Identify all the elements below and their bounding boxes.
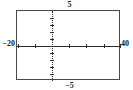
x-axis-tick <box>86 44 87 48</box>
x-axis-tick <box>35 44 36 48</box>
y-axis-tick <box>50 74 54 75</box>
x-axis-tick <box>69 44 70 48</box>
x-axis-min-label: −20 <box>0 39 16 48</box>
x-axis-tick <box>18 44 19 48</box>
y-axis-tick <box>50 67 54 68</box>
y-axis-max-label: 5 <box>0 0 133 9</box>
y-axis-tick <box>50 32 54 33</box>
coordinate-plane-viewport[interactable]: 5 −5 −20 40 <box>0 0 133 90</box>
y-axis-tick <box>50 39 54 40</box>
y-axis-line <box>52 11 53 81</box>
plot-frame[interactable] <box>16 10 120 80</box>
x-axis-tick <box>104 44 105 48</box>
x-axis-max-label: 40 <box>120 39 133 48</box>
y-axis-tick <box>50 18 54 19</box>
y-axis-min-label: −5 <box>0 81 133 90</box>
y-axis-tick <box>50 25 54 26</box>
y-axis-tick <box>50 60 54 61</box>
y-axis-tick <box>50 53 54 54</box>
